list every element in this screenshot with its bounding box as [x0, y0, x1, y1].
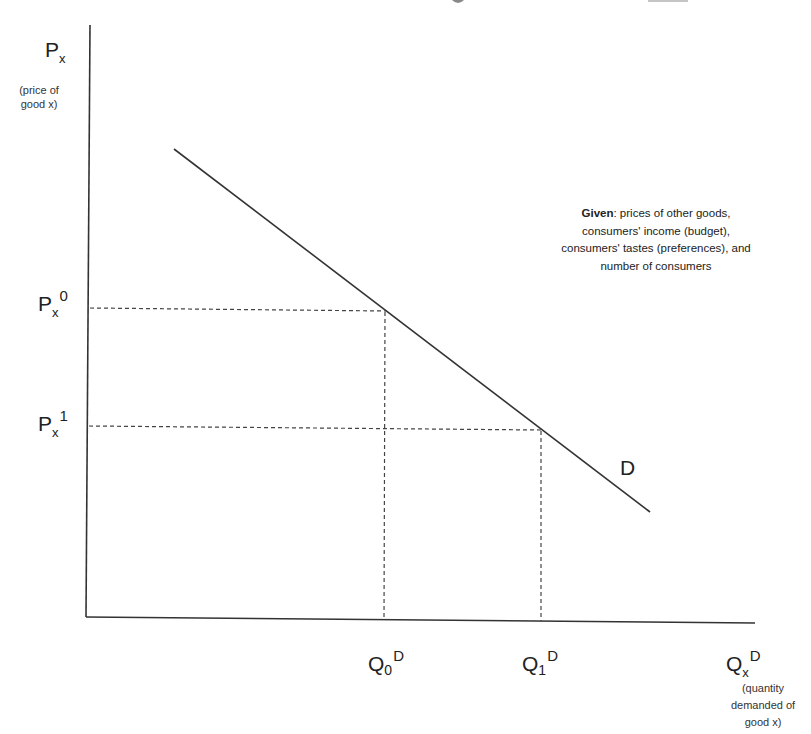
y-axis-description: (price of good x) [8, 83, 70, 111]
demand-curve-label: D [620, 456, 635, 480]
p0-main: P [38, 292, 52, 315]
demand-chart-canvas [0, 0, 811, 734]
y-axis-desc-line2: good x) [8, 97, 70, 111]
given-line1: Given: prices of other goods, [545, 205, 767, 223]
quantity-label-q1: Q1D [522, 652, 558, 676]
p1-sub: x [52, 425, 59, 440]
q0-main: Q [368, 652, 384, 675]
x-axis [86, 617, 755, 623]
given-line4: number of consumers [545, 258, 767, 276]
q0-sup: D [393, 647, 404, 664]
quantity-label-q0: Q0D [368, 652, 404, 676]
title-fragments [452, 0, 688, 3]
given-line2: consumers' income (budget), [545, 223, 767, 241]
q1-sub: 1 [538, 662, 546, 678]
p0-sub: x [52, 305, 59, 320]
price-label-p0: Px0 [38, 292, 68, 316]
p0-sup: 0 [60, 287, 68, 304]
x-axis-label-main: Q [726, 652, 742, 675]
demand-curve [174, 149, 650, 512]
reference-lines [89, 308, 541, 621]
given-bold-prefix: Given [582, 207, 614, 219]
y-axis [86, 25, 90, 617]
p0-dashed-line [90, 308, 386, 311]
x-axis-label-sub: x [742, 665, 749, 680]
y-axis-label-main: P [45, 38, 59, 61]
y-axis-desc-line1: (price of [8, 83, 70, 97]
q1-sup: D [547, 647, 558, 664]
x-axis-label-sup: D [750, 647, 761, 664]
x-axis-desc-line2: demanded of [718, 697, 808, 714]
p1-dashed-line [89, 426, 541, 430]
x-axis-desc-line1: (quantity [718, 680, 808, 697]
p1-sup: 1 [60, 407, 68, 424]
price-label-p1: Px1 [38, 412, 68, 436]
q0-sub: 0 [384, 662, 392, 678]
given-line1-text: : prices of other goods, [613, 207, 730, 219]
q0-dashed-line [384, 312, 385, 619]
given-line3: consumers' tastes (preferences), and [545, 240, 767, 258]
x-axis-desc-line3: good x) [718, 714, 808, 731]
p1-main: P [38, 412, 52, 435]
q1-main: Q [522, 652, 538, 675]
y-axis-label: Px [45, 38, 66, 62]
x-axis-description: (quantity demanded of good x) [718, 680, 808, 731]
x-axis-label: QxD [726, 652, 761, 676]
given-annotation: Given: prices of other goods, consumers'… [545, 205, 767, 275]
y-axis-label-sub: x [59, 51, 66, 66]
